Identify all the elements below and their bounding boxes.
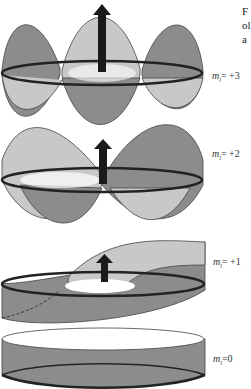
label-ml-plus1: ml= +1: [213, 256, 241, 269]
panel-ml-plus3: [2, 4, 203, 125]
caption-fragment-3: a: [242, 32, 247, 46]
arrow-up-icon: [101, 262, 108, 282]
caption-fragment-1: F: [242, 4, 248, 18]
label-ml-zero: ml=0: [213, 353, 233, 366]
panel-ml-plus2: [2, 125, 203, 223]
panel-ml-plus1: [2, 241, 205, 323]
arrow-up-icon: [98, 14, 106, 72]
caption-fragment-2: ol: [242, 18, 251, 32]
arrow-up-icon: [99, 148, 107, 184]
panel-ml-zero: [2, 328, 205, 388]
label-ml-plus2: ml= +2: [212, 148, 240, 161]
label-ml-plus3: ml= +3: [212, 70, 240, 83]
angular-momentum-diagram: [0, 0, 251, 389]
